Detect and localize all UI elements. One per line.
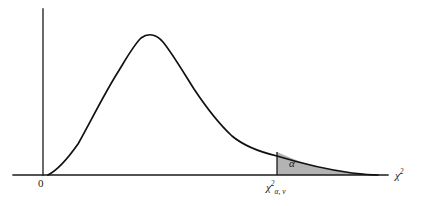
distribution-plot (0, 0, 424, 206)
density-curve (48, 35, 378, 175)
critical-value-label: χ2α, ν (266, 180, 286, 195)
chi-square-distribution-figure: 0 α χ2α, ν χ2 (0, 0, 424, 206)
origin-label: 0 (38, 178, 44, 189)
x-axis-title: χ2 (395, 168, 404, 181)
alpha-area-label: α (289, 158, 295, 169)
critical-value-subscript: α, ν (275, 187, 286, 196)
x-axis-title-superscript: 2 (400, 167, 404, 176)
